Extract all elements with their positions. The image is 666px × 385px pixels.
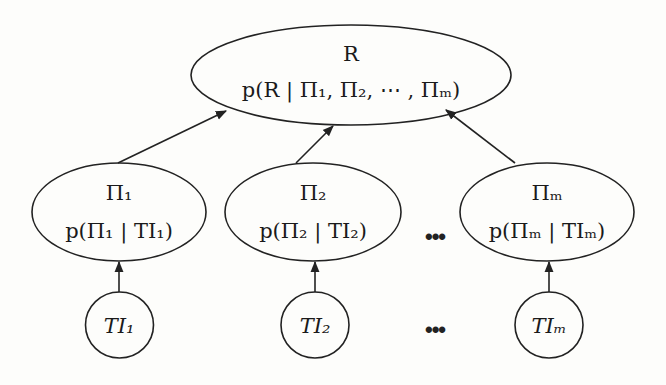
- edge-pim-r: [446, 110, 515, 163]
- node-pi-2-title: Π₂: [300, 183, 327, 204]
- node-pi-1: [32, 163, 206, 261]
- node-r: [191, 25, 511, 125]
- ellipsis-middle: •••: [425, 224, 445, 250]
- edge-pi1-r: [118, 111, 226, 163]
- node-pi-1-formula: p(Π₁ | TI₁): [65, 221, 173, 242]
- node-r-formula: p(R | Π₁, Π₂, ⋯ , Πₘ): [242, 80, 460, 101]
- node-pi-1-title: Π₁: [106, 183, 133, 204]
- node-r-title: R: [343, 44, 359, 65]
- node-ti-m-label: TIₘ: [531, 316, 566, 337]
- node-pi-2-formula: p(Π₂ | TI₂): [259, 221, 367, 242]
- node-pi-m-title: Πₘ: [531, 183, 562, 204]
- edge-pi2-r: [296, 126, 333, 163]
- node-pi-m: [460, 163, 634, 261]
- node-pi-m-formula: p(Πₘ | TIₘ): [489, 221, 606, 242]
- node-ti-2-label: TI₂: [300, 316, 331, 337]
- node-pi-2: [225, 163, 401, 261]
- node-ti-1-label: TI₁: [104, 316, 135, 337]
- ellipsis-bottom: •••: [425, 317, 445, 343]
- diagram-canvas: R p(R | Π₁, Π₂, ⋯ , Πₘ) Π₁ p(Π₁ | TI₁) Π…: [0, 0, 666, 385]
